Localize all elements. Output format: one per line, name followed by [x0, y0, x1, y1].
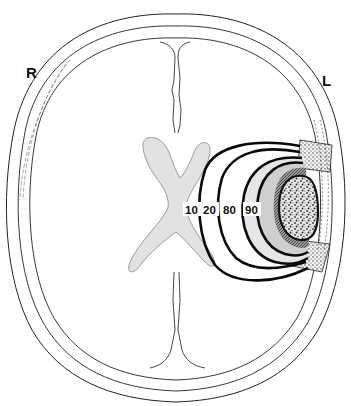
skull-section-svg: 10 20 80 90 — [0, 0, 351, 406]
diploe-right — [20, 60, 70, 200]
isodose-label-80: 80 — [223, 204, 236, 216]
falx-anterior — [160, 42, 190, 133]
orientation-label-right: R — [26, 64, 37, 81]
isodose-label-90: 90 — [245, 204, 258, 216]
orientation-label-left: L — [322, 72, 331, 89]
isodose-label-20: 20 — [203, 204, 216, 216]
isodose-label-10: 10 — [185, 204, 198, 216]
falx-posterior — [150, 272, 205, 368]
tumor — [279, 176, 318, 240]
